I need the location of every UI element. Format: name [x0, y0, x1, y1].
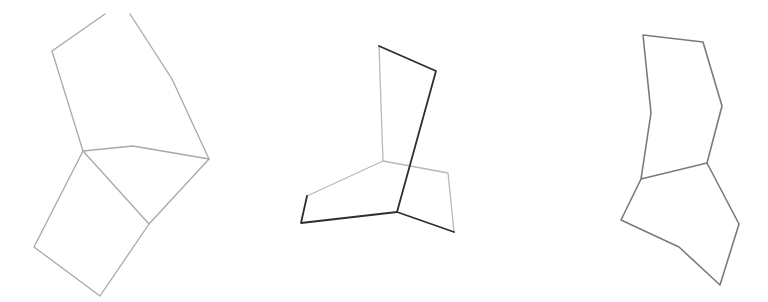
- figure-3: [621, 35, 739, 285]
- figure-1-bottom-right-edge: [149, 159, 209, 224]
- figure-2-dark-branch: [397, 212, 454, 232]
- figure-1-top-right-edge: [130, 14, 209, 159]
- figure-1-top-left-edge: [52, 14, 105, 151]
- figure-1-middle-edge: [83, 146, 209, 159]
- figure-3-top-polygon: [641, 35, 722, 179]
- figure-3-bottom-polygon: [621, 163, 739, 285]
- figure-2: [301, 46, 454, 232]
- figure-2-dark-outline: [301, 46, 436, 223]
- figure-1: [34, 14, 209, 296]
- drawing-canvas: [0, 0, 768, 302]
- figure-2-light-vertical: [379, 46, 383, 161]
- figure-2-light-path: [307, 161, 454, 232]
- figure-1-bottom-square: [34, 151, 149, 296]
